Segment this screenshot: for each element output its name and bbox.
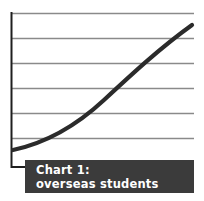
chart-caption-box: Chart 1: overseas students	[25, 160, 194, 193]
chart-caption-subtitle: overseas students	[36, 178, 194, 192]
gridlines	[11, 14, 194, 139]
data-line-overseas-students	[13, 25, 192, 150]
chart-figure: Chart 1: overseas students	[0, 0, 204, 201]
chart-caption-title: Chart 1:	[36, 164, 194, 178]
